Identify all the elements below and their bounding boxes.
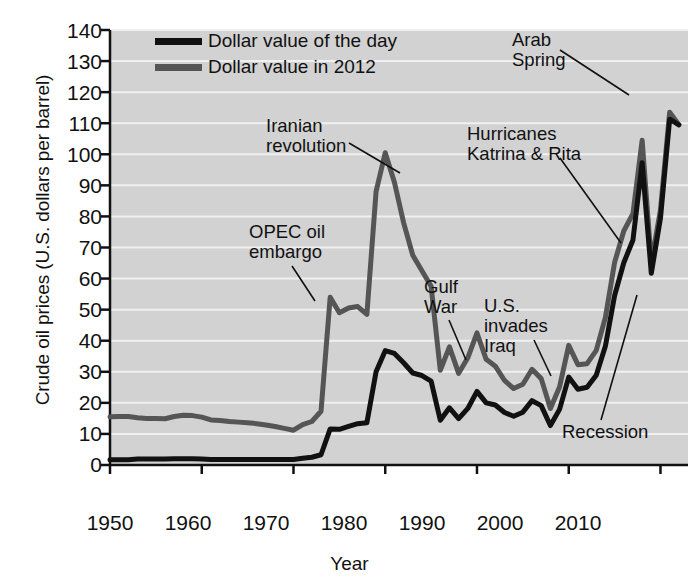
annotation-us-invades-iraq: U.S. invades Iraq [484, 296, 548, 356]
annotation-hurricanes: Hurricanes Katrina & Rita [467, 124, 581, 164]
annotation-gulf-war: Gulf War [424, 277, 458, 317]
legend-swatch-adjusted [155, 64, 202, 71]
legend-swatch-nominal [155, 38, 202, 45]
annotation-opec-embargo: OPEC oil embargo [249, 222, 325, 262]
plot-canvas [0, 0, 699, 588]
x-tick-marks [110, 465, 660, 474]
y-tick-marks [101, 30, 110, 465]
chart-figure: Crude oil prices (U.S. dollars per barre… [0, 0, 699, 588]
legend-label-adjusted: Dollar value in 2012 [208, 57, 376, 77]
legend-label-nominal: Dollar value of the day [208, 31, 397, 51]
annotation-recession: Recession [562, 422, 648, 442]
annotation-arab-spring: Arab Spring [512, 30, 565, 70]
annotation-iranian-revolution: Iranian revolution [266, 116, 346, 156]
